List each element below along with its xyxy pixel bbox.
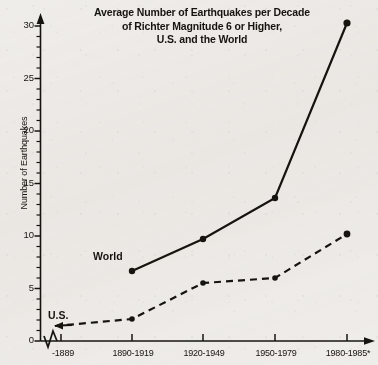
data-point-world-1920-1949 bbox=[200, 236, 206, 242]
series-line-us bbox=[55, 231, 350, 326]
x-ticks bbox=[61, 334, 347, 341]
y-major-ticks bbox=[35, 26, 41, 341]
x-axis-break-icon bbox=[44, 331, 57, 347]
us-label-pointer-arrow bbox=[54, 322, 72, 330]
data-point-us-1980-1985 bbox=[344, 231, 351, 238]
series-line-world bbox=[129, 19, 351, 274]
data-point-world-1980-1985 bbox=[343, 19, 350, 26]
earthquake-line-chart: Average Number of Earthquakes per Decade… bbox=[0, 0, 378, 365]
data-point-world-1890-1919 bbox=[129, 268, 135, 274]
y-axis bbox=[37, 13, 45, 341]
chart-plot-area bbox=[0, 0, 378, 365]
x-axis bbox=[41, 337, 376, 345]
data-point-world-1950-1979 bbox=[272, 195, 278, 201]
data-point-us-1890-1919 bbox=[129, 316, 135, 322]
data-point-us-1920-1949 bbox=[200, 280, 206, 286]
data-point-us-1950-1979 bbox=[272, 275, 278, 281]
